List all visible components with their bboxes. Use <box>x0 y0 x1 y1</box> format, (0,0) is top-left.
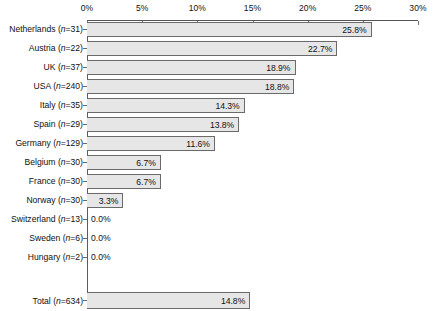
bar-container[interactable]: 18.9% <box>87 60 296 75</box>
bar[interactable]: 18.8% <box>87 79 294 94</box>
category-label: Total (n=634) <box>33 296 83 306</box>
bar[interactable]: 14.3% <box>87 98 245 113</box>
category-label: Switzerland (n=13) <box>11 214 83 224</box>
category-label: Germany (n=129) <box>15 138 83 148</box>
bar-row: Norway (n=30)3.3% <box>0 192 435 211</box>
category-label: Italy (n=35) <box>40 100 83 110</box>
bar-row: USA (n=240)18.8% <box>0 78 435 97</box>
bar[interactable]: 3.3% <box>87 193 123 208</box>
bar-row: Netherlands (n=31)25.8% <box>0 21 435 40</box>
category-label: Spain (n=29) <box>34 119 83 129</box>
bar[interactable]: 6.7% <box>87 174 161 189</box>
bar-container[interactable]: 3.3% <box>87 193 123 208</box>
x-tick-label: 5% <box>136 3 149 13</box>
bar[interactable]: 13.8% <box>87 117 239 132</box>
x-tick-label: 30% <box>409 3 426 13</box>
y-tick-mark <box>83 219 87 220</box>
bar-container[interactable]: 14.3% <box>87 98 245 113</box>
bar[interactable]: 22.7% <box>87 41 337 56</box>
row-spacer <box>0 268 435 287</box>
bar-row: Sweden (n=6)0.0% <box>0 230 435 249</box>
category-label: Belgium (n=30) <box>24 157 83 167</box>
y-tick-mark <box>83 238 87 239</box>
bar-row: UK (n=37)18.9% <box>0 59 435 78</box>
bar-container[interactable]: 11.6% <box>87 136 215 151</box>
bar-row: Spain (n=29)13.8% <box>0 116 435 135</box>
bar-container[interactable]: 22.7% <box>87 41 337 56</box>
bar-container[interactable]: 14.8% <box>87 292 250 309</box>
x-tick-label: 25% <box>354 3 371 13</box>
x-tick-label: 10% <box>189 3 206 13</box>
bar-container[interactable]: 6.7% <box>87 155 161 170</box>
bar-value-label: 3.3% <box>99 196 119 206</box>
bar-container[interactable]: 13.8% <box>87 117 239 132</box>
bar[interactable]: 14.8% <box>87 292 250 309</box>
x-tick-label: 0% <box>81 3 94 13</box>
category-label: France (n=30) <box>29 176 83 186</box>
bar-row: Germany (n=129)11.6% <box>0 135 435 154</box>
bar-value-label: 18.8% <box>265 82 289 92</box>
bar-value-label: 13.8% <box>210 120 234 130</box>
category-label: Hungary (n=2) <box>28 252 83 262</box>
bar-value-label: 14.8% <box>221 296 245 306</box>
bar-row: Italy (n=35)14.3% <box>0 97 435 116</box>
bar-chart: 0%5%10%15%20%25%30% Netherlands (n=31)25… <box>0 0 435 311</box>
bar-row: Hungary (n=2)0.0% <box>0 249 435 268</box>
bar-container[interactable]: 6.7% <box>87 174 161 189</box>
bar-row: France (n=30)6.7% <box>0 173 435 192</box>
bar-row: Belgium (n=30)6.7% <box>0 154 435 173</box>
bar-container[interactable]: 18.8% <box>87 79 294 94</box>
bar-value-label: 18.9% <box>266 63 290 73</box>
x-tick-label: 15% <box>244 3 261 13</box>
total-row: Total (n=634)14.8% <box>0 291 435 311</box>
category-label: USA (n=240) <box>34 81 83 91</box>
category-label: UK (n=37) <box>44 62 83 72</box>
bar[interactable]: 6.7% <box>87 155 161 170</box>
bar-value-label: 22.7% <box>308 44 332 54</box>
category-label: Sweden (n=6) <box>29 233 83 243</box>
bar-value-label: 0.0% <box>91 214 111 224</box>
bar-value-label: 14.3% <box>215 101 239 111</box>
bar-value-label: 6.7% <box>136 177 156 187</box>
bar-rows: Netherlands (n=31)25.8%Austria (n=22)22.… <box>0 21 435 311</box>
bar[interactable]: 18.9% <box>87 60 296 75</box>
bar-value-label: 25.8% <box>342 25 366 35</box>
bar-value-label: 0.0% <box>91 233 111 243</box>
bar-container[interactable]: 25.8% <box>87 22 372 37</box>
bar-row: Switzerland (n=13)0.0% <box>0 211 435 230</box>
bar-value-label: 11.6% <box>186 139 210 149</box>
bar-row: Austria (n=22)22.7% <box>0 40 435 59</box>
category-label: Austria (n=22) <box>29 43 83 53</box>
bar[interactable]: 25.8% <box>87 22 372 37</box>
bar[interactable]: 11.6% <box>87 136 215 151</box>
y-tick-mark <box>83 257 87 258</box>
bar-value-label: 6.7% <box>136 158 156 168</box>
category-label: Norway (n=30) <box>26 195 83 205</box>
x-tick-label: 20% <box>299 3 316 13</box>
category-label: Netherlands (n=31) <box>9 24 83 34</box>
bar-value-label: 0.0% <box>91 252 111 262</box>
